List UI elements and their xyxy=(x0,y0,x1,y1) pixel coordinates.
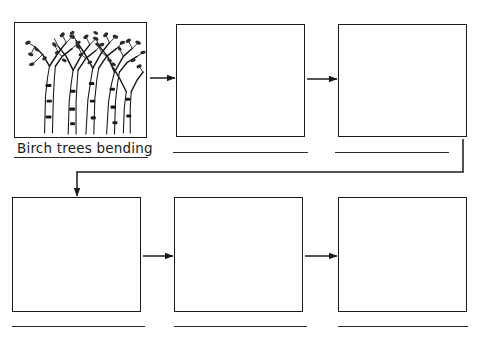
panel-5-drawing-box[interactable] xyxy=(174,197,303,312)
caption-line-panel-6[interactable] xyxy=(338,326,468,327)
panel-3-drawing-box[interactable] xyxy=(338,24,467,137)
panel-1-illustration[interactable] xyxy=(14,22,147,138)
caption-line-panel-4[interactable] xyxy=(12,326,145,327)
panel-1-caption: Birch trees bending xyxy=(17,142,153,156)
panel-6-drawing-box[interactable] xyxy=(338,197,467,312)
birch-trees-illustration xyxy=(15,23,146,137)
caption-line-panel-1[interactable] xyxy=(14,157,148,158)
caption-line-panel-2[interactable] xyxy=(173,152,308,153)
caption-line-panel-3[interactable] xyxy=(335,152,449,153)
storyboard-worksheet: Birch trees bending xyxy=(0,0,482,337)
panel-4-drawing-box[interactable] xyxy=(12,197,141,312)
panel-2-drawing-box[interactable] xyxy=(176,24,305,137)
caption-line-panel-5[interactable] xyxy=(174,326,307,327)
